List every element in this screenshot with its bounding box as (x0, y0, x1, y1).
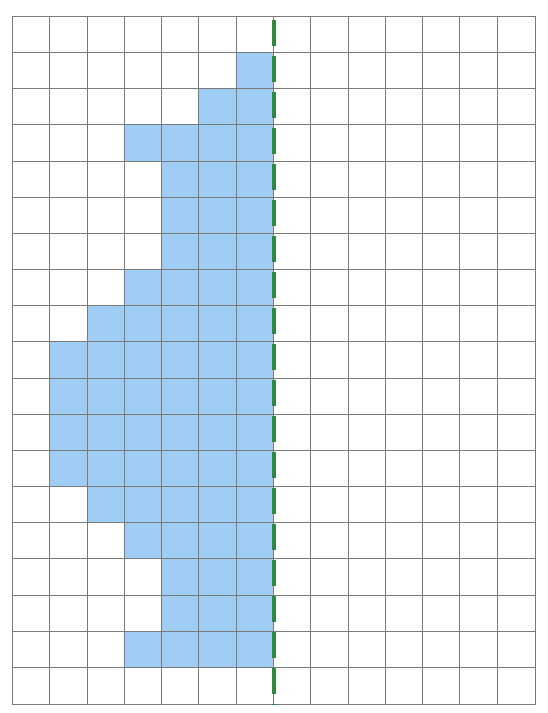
grid-cell (311, 487, 348, 523)
shaded-cell (125, 632, 162, 668)
grid-cell (50, 17, 87, 53)
grid-cell (386, 487, 423, 523)
grid-cell (13, 668, 50, 704)
grid-cell (460, 342, 497, 378)
shaded-cell (199, 270, 236, 306)
shaded-cell (237, 89, 274, 125)
grid-cell (423, 415, 460, 451)
shaded-cell (237, 234, 274, 270)
grid-cell (311, 596, 348, 632)
grid-cell (125, 596, 162, 632)
shaded-cell (162, 596, 199, 632)
shaded-cell (125, 451, 162, 487)
shaded-cell (199, 523, 236, 559)
grid-cell (311, 125, 348, 161)
grid-cell (349, 559, 386, 595)
shaded-cell (237, 415, 274, 451)
grid-cell (274, 487, 311, 523)
grid-cell (274, 198, 311, 234)
grid-cell (460, 125, 497, 161)
grid-cell (386, 379, 423, 415)
grid-cell (498, 270, 535, 306)
grid-cell (88, 270, 125, 306)
shaded-cell (199, 632, 236, 668)
shaded-cell (162, 270, 199, 306)
grid-cell (460, 632, 497, 668)
grid-cell (386, 89, 423, 125)
grid-cell (125, 89, 162, 125)
grid-cell (125, 17, 162, 53)
grid-cell (311, 234, 348, 270)
grid-cell (88, 596, 125, 632)
grid-cell (423, 234, 460, 270)
shaded-cell (237, 523, 274, 559)
shaded-cell (125, 270, 162, 306)
grid-cell (311, 632, 348, 668)
grid-cell (498, 342, 535, 378)
shaded-cell (162, 632, 199, 668)
shaded-cell (162, 415, 199, 451)
grid-cell (311, 379, 348, 415)
grid-cell (13, 125, 50, 161)
shaded-cell (199, 379, 236, 415)
shaded-cell (237, 559, 274, 595)
grid-cell (311, 559, 348, 595)
shaded-cell (162, 234, 199, 270)
grid-cell (88, 162, 125, 198)
grid-cell (460, 559, 497, 595)
grid-cell (460, 198, 497, 234)
grid-cell (386, 306, 423, 342)
grid-cell (13, 559, 50, 595)
grid-cell (162, 53, 199, 89)
shaded-cell (125, 379, 162, 415)
grid-cell (311, 270, 348, 306)
grid-cell (498, 53, 535, 89)
grid-cell (423, 487, 460, 523)
grid-cell (237, 668, 274, 704)
grid-cell (311, 89, 348, 125)
grid-cell (274, 162, 311, 198)
grid-cell (50, 53, 87, 89)
grid-cell (386, 632, 423, 668)
shaded-cell (199, 306, 236, 342)
grid-cell (460, 53, 497, 89)
grid-cell (13, 342, 50, 378)
grid-cell (13, 379, 50, 415)
grid-cell (125, 559, 162, 595)
grid-cell (349, 125, 386, 161)
grid-cell (311, 451, 348, 487)
grid-cell (13, 89, 50, 125)
grid-cell (50, 487, 87, 523)
grid-cell (50, 632, 87, 668)
grid-cell (13, 162, 50, 198)
shaded-cell (237, 632, 274, 668)
grid-cell (50, 306, 87, 342)
grid-cell (460, 379, 497, 415)
shaded-cell (125, 415, 162, 451)
grid-cell (50, 162, 87, 198)
grid-cell (498, 234, 535, 270)
shaded-cell (50, 342, 87, 378)
grid-cell (460, 17, 497, 53)
shaded-cell (162, 198, 199, 234)
grid-cell (199, 53, 236, 89)
grid-cell (423, 559, 460, 595)
grid-cell (13, 523, 50, 559)
shaded-cell (199, 451, 236, 487)
grid-cell (498, 162, 535, 198)
grid-cell (274, 415, 311, 451)
grid-cell (349, 668, 386, 704)
grid-cell (274, 17, 311, 53)
grid-cell (274, 379, 311, 415)
shaded-cell (237, 270, 274, 306)
grid-cell (162, 17, 199, 53)
grid-cell (460, 523, 497, 559)
shaded-cell (162, 162, 199, 198)
grid-cell (498, 379, 535, 415)
shaded-cell (237, 198, 274, 234)
grid-cell (13, 632, 50, 668)
grid-cell (274, 596, 311, 632)
grid-cell (50, 559, 87, 595)
shaded-cell (162, 306, 199, 342)
grid-cell (423, 17, 460, 53)
